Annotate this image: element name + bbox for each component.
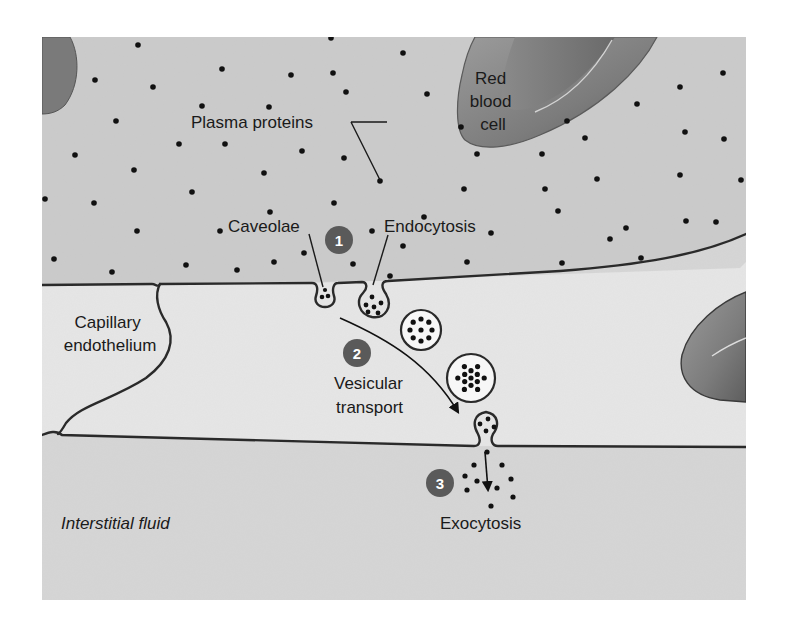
plasma-protein-dot [713, 219, 719, 225]
step-badge-1: 1 [325, 226, 353, 254]
plasma-protein-dot [219, 66, 225, 72]
vesicle-protein [482, 375, 487, 380]
vesicle-protein [468, 383, 473, 388]
step-badge-3: 3 [426, 469, 454, 497]
label-endocytosis: Endocytosis [384, 217, 476, 236]
step-number: 1 [335, 232, 343, 249]
plasma-protein-dot [199, 103, 205, 109]
vesicle-protein [468, 368, 473, 373]
plasma-protein-dot [607, 236, 613, 242]
vesicle-protein [475, 379, 480, 384]
plasma-protein-dot [189, 189, 195, 195]
plasma-protein-dot [271, 259, 277, 265]
plasma-protein-dot [341, 155, 347, 161]
step-badge-2: 2 [343, 339, 371, 367]
vesicle-protein [475, 387, 480, 392]
plasma-protein-dot [328, 35, 334, 41]
plasma-region [42, 37, 746, 285]
plasma-protein-dot [113, 118, 119, 124]
plasma-protein-dot [176, 141, 182, 147]
plasma-protein-dot [350, 261, 356, 267]
vesicle-protein [462, 372, 467, 377]
vesicle-protein [407, 327, 412, 332]
plasma-protein-dot [682, 129, 688, 135]
label-plasma-proteins: Plasma proteins [191, 113, 313, 132]
vesicle-protein [462, 379, 467, 384]
plasma-protein-dot [559, 260, 565, 266]
vesicle-protein [411, 335, 416, 340]
released-protein-dot [464, 487, 469, 492]
plasma-protein-dot [738, 177, 744, 183]
plasma-protein-dot [72, 152, 78, 158]
released-protein-dot [494, 485, 499, 490]
plasma-protein-dot [299, 148, 305, 154]
label-caveolae: Caveolae [228, 217, 300, 236]
vesicle-protein [418, 338, 423, 343]
vesicle-protein [455, 375, 460, 380]
caveola-protein [326, 294, 331, 299]
plasma-protein-dot [183, 262, 189, 268]
caveola-protein [323, 288, 327, 292]
plasma-protein-dot [234, 267, 240, 273]
plasma-protein-dot [677, 172, 683, 178]
released-protein-dot [462, 473, 467, 478]
vesicle-protein [462, 387, 467, 392]
label-interstitial-fluid: Interstitial fluid [61, 514, 170, 533]
step-number: 2 [353, 345, 361, 362]
vesicle-protein [418, 316, 423, 321]
plasma-protein-dot [683, 218, 689, 224]
plasma-protein-dot [464, 259, 470, 265]
plasma-protein-dot [720, 70, 726, 76]
vesicle-protein [475, 364, 480, 369]
plasma-protein-dot [51, 256, 57, 262]
vesicle-protein [462, 364, 467, 369]
released-protein-dot [471, 462, 476, 467]
step-number: 3 [436, 475, 444, 492]
plasma-protein-dot [677, 84, 683, 90]
plasma-protein-dot [594, 176, 600, 182]
vesicle-protein [426, 320, 431, 325]
plasma-protein-dot [638, 255, 644, 261]
plasma-protein-dot [387, 273, 393, 279]
vesicle-protein [426, 335, 431, 340]
plasma-protein-dot [266, 104, 272, 110]
plasma-protein-dot [42, 196, 48, 202]
vesicle-protein [429, 327, 434, 332]
released-protein-dot [488, 503, 493, 508]
capillary-transcytosis-diagram: 123 Plasma proteins Red blood cell Caveo… [0, 0, 787, 623]
vesicle-protein [418, 327, 423, 332]
plasma-protein-dot [331, 200, 337, 206]
plasma-protein-dot [634, 101, 640, 107]
plasma-protein-dot [474, 151, 480, 157]
plasma-protein-dot [721, 136, 727, 142]
released-protein-dot [510, 494, 515, 499]
plasma-protein-dot [288, 72, 294, 78]
vesicle-protein [411, 320, 416, 325]
released-protein-dot [474, 478, 479, 483]
plasma-protein-dot [109, 269, 115, 275]
plasma-protein-dot [542, 186, 548, 192]
plasma-protein-dot [400, 50, 406, 56]
released-protein-dot [499, 462, 504, 467]
plasma-protein-dot [582, 135, 588, 141]
plasma-protein-dot [488, 230, 494, 236]
plasma-protein-dot [131, 167, 137, 173]
plasma-protein-dot [623, 225, 629, 231]
plasma-protein-dot [564, 118, 570, 124]
diagram-panel: 123 Plasma proteins Red blood cell Caveo… [42, 25, 746, 600]
plasma-protein-dot [301, 250, 307, 256]
label-exocytosis: Exocytosis [440, 514, 521, 533]
plasma-protein-dot [343, 89, 349, 95]
caveola-protein [320, 295, 325, 300]
plasma-protein-dot [217, 228, 223, 234]
plasma-protein-dot [135, 42, 141, 48]
plasma-protein-dot [461, 186, 467, 192]
plasma-protein-dot [91, 200, 97, 206]
plasma-protein-dot [330, 70, 336, 76]
plasma-protein-dot [92, 77, 98, 83]
plasma-protein-dot [424, 91, 430, 97]
plasma-protein-dot [505, 25, 511, 31]
vesicle [401, 310, 441, 350]
plasma-protein-dot [222, 141, 228, 147]
plasma-protein-dot [458, 124, 464, 130]
